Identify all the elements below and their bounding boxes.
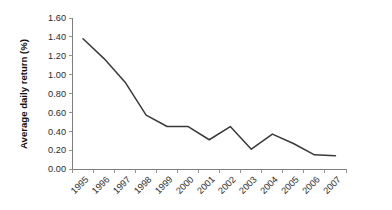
y-axis-tick-label: 1.20 xyxy=(48,51,66,61)
y-axis-tick-label: 0.40 xyxy=(48,127,66,137)
y-axis-tick-label: 1.60 xyxy=(48,13,66,23)
y-axis-tick-label: 0.20 xyxy=(48,145,66,155)
y-axis-tick-labels: 0.000.200.400.600.801.001.201.401.60 xyxy=(48,13,66,174)
y-axis-tick-label: 1.00 xyxy=(48,70,66,80)
y-axis-title: Average daily return (%) xyxy=(18,39,29,149)
y-axis-tick-label: 0.00 xyxy=(48,164,66,174)
y-axis-tick-label: 0.80 xyxy=(48,89,66,99)
line-chart: 0.000.200.400.600.801.001.201.401.60 Ave… xyxy=(0,0,392,210)
y-axis-tick-label: 1.40 xyxy=(48,32,66,42)
chart-container: 0.000.200.400.600.801.001.201.401.60 Ave… xyxy=(0,0,392,210)
y-axis-tick-label: 0.60 xyxy=(48,108,66,118)
